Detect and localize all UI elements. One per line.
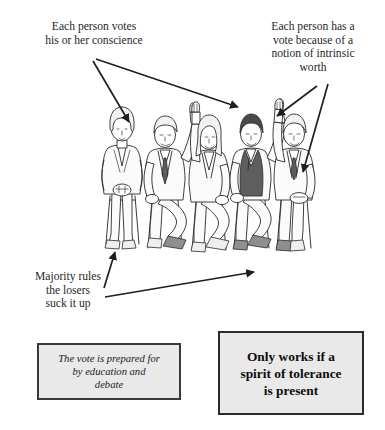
diagram-canvas: .ln{fill:none;stroke:#2a2a2a;stroke-widt… bbox=[0, 0, 385, 430]
person-1 bbox=[102, 107, 143, 249]
callout-vote-prepared: The vote is prepared for by education an… bbox=[37, 343, 181, 400]
person-5 bbox=[273, 99, 315, 251]
annotation-each-person-votes-conscience: Each person votes his or her conscience bbox=[8, 20, 180, 47]
callout-spirit-of-tolerance: Only works if a spirit of tolerance is p… bbox=[218, 331, 364, 415]
annotation-majority-rules: Majority rules the losers suck it up bbox=[12, 270, 124, 311]
annotation-intrinsic-worth: Each person has a vote because of a noti… bbox=[248, 20, 378, 74]
person-3 bbox=[189, 102, 230, 252]
